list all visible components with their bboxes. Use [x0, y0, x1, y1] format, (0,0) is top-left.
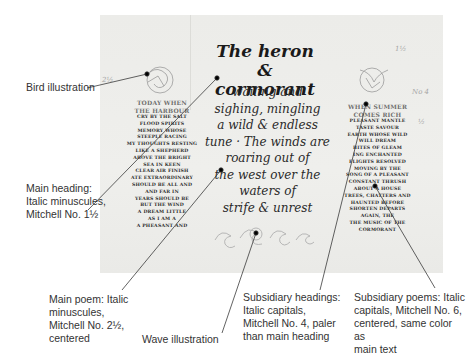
callout-line: Italic minuscules,	[26, 195, 106, 208]
leader-dot-bird	[145, 72, 149, 76]
callout-main-poem: Main poem: Italic minuscules, Mitchell N…	[49, 293, 128, 345]
callout-line: Main heading:	[26, 182, 106, 195]
leader-dot-subpoem	[373, 184, 377, 188]
callout-line: centered	[49, 332, 128, 345]
leader-dot-wave	[254, 231, 258, 235]
leader-line-subpoem	[375, 186, 435, 288]
callout-line: Italic capitals,	[243, 304, 340, 317]
leader-line-subheading	[320, 104, 366, 290]
callout-main-heading: Main heading: Italic minuscules, Mitchel…	[26, 182, 106, 221]
leader-line-bird	[87, 74, 147, 88]
callout-line: Subsidiary headings:	[243, 291, 340, 304]
leader-line-main-poem	[122, 170, 221, 290]
callout-line: Mitchell No. 1½	[26, 208, 106, 221]
callout-wave: Wave illustration	[142, 333, 219, 346]
callout-line: than main heading	[243, 330, 340, 343]
callout-line: Main poem: Italic	[49, 293, 128, 306]
callout-line: Subsidiary poems: Italic	[354, 291, 466, 304]
callout-subsidiary-poems: Subsidiary poems: Italic capitals, Mitch…	[354, 291, 466, 356]
callout-line: minuscules,	[49, 306, 128, 319]
callout-line: main text	[354, 343, 466, 356]
leader-line-heading	[88, 78, 217, 210]
callout-line: Mitchell No. 4, paler	[243, 317, 340, 330]
callout-subsidiary-headings: Subsidiary headings: Italic capitals, Mi…	[243, 291, 340, 343]
leader-dot-subheading	[364, 102, 368, 106]
callout-line: centered, same color as	[354, 317, 466, 343]
callout-line: capitals, Mitchell No. 6,	[354, 304, 466, 317]
leader-dot-heading	[215, 76, 219, 80]
callout-bird: Bird illustration	[26, 81, 95, 94]
leader-dot-main-poem	[219, 168, 223, 172]
callout-line: Mitchell No. 2½,	[49, 319, 128, 332]
